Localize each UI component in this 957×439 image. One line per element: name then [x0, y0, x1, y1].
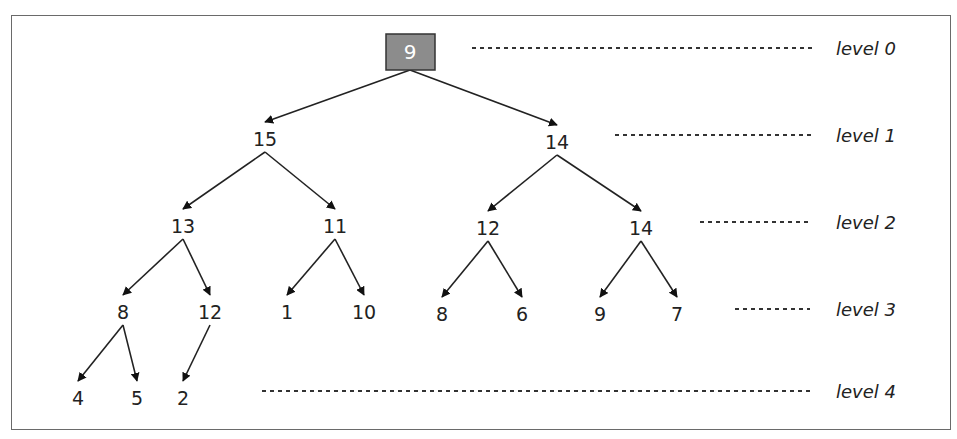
- edge-arrow: [183, 325, 210, 381]
- node-value: 8: [117, 301, 129, 323]
- node-value: 11: [323, 215, 347, 237]
- edge-arrow: [287, 239, 335, 295]
- edge-arrow: [123, 239, 183, 295]
- level-label: level 1: [836, 125, 896, 146]
- heap-tree-diagram: 91514131112148121108697452 level 0level …: [0, 0, 957, 439]
- node-value: 1: [281, 301, 293, 323]
- level-label: level 2: [836, 212, 896, 233]
- edge-arrow: [600, 241, 641, 297]
- node-value: 5: [131, 387, 143, 409]
- edge-arrow: [410, 70, 557, 125]
- level-guides: level 0level 1level 2level 3level 4: [262, 38, 896, 402]
- edge-arrow: [78, 325, 123, 381]
- edge-arrow: [641, 241, 677, 297]
- level-label: level 4: [836, 381, 896, 402]
- node-value: 9: [594, 303, 606, 325]
- node-value: 4: [72, 387, 84, 409]
- node-value: 13: [171, 215, 195, 237]
- edge-arrow: [183, 239, 210, 295]
- node-value: 7: [671, 303, 683, 325]
- node-value: 14: [545, 131, 569, 153]
- edge-arrow: [123, 325, 137, 381]
- edge-arrow: [488, 155, 557, 211]
- level-label: level 3: [836, 299, 896, 320]
- node-value: 12: [476, 217, 500, 239]
- node-value: 15: [253, 128, 277, 150]
- node-value: 2: [177, 387, 189, 409]
- node-value: 6: [516, 303, 528, 325]
- edge-arrow: [265, 152, 335, 209]
- tree-edges: [78, 70, 677, 381]
- edge-arrow: [488, 241, 522, 297]
- level-label: level 0: [836, 38, 896, 59]
- tree-nodes: 91514131112148121108697452: [72, 40, 683, 409]
- edge-arrow: [183, 152, 265, 209]
- node-value: 12: [198, 301, 222, 323]
- edge-arrow: [442, 241, 488, 297]
- node-value: 10: [352, 301, 376, 323]
- edge-arrow: [265, 70, 410, 122]
- edge-arrow: [557, 155, 641, 211]
- edge-arrow: [335, 239, 364, 295]
- root-node-value: 9: [404, 40, 417, 64]
- node-value: 8: [436, 303, 448, 325]
- node-value: 14: [629, 217, 653, 239]
